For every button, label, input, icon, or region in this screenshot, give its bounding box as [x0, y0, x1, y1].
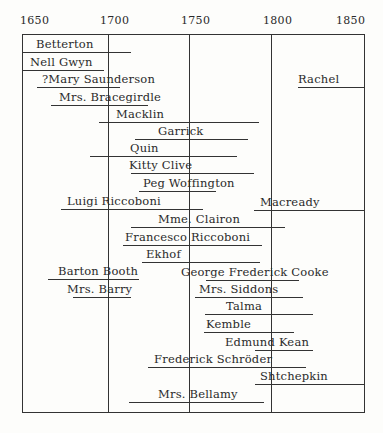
actor-name-label: Frederick Schröder — [154, 353, 272, 366]
actor-name-label: Luigi Riccoboni — [67, 195, 161, 208]
actor-name-label: Mme. Clairon — [158, 213, 240, 226]
x-tick-label: 1650 — [20, 14, 49, 27]
actor-name-label: Peg Woffington — [143, 177, 235, 190]
actor-name-label: Kemble — [206, 318, 251, 331]
lifespan-line — [139, 191, 216, 192]
lifespan-line — [254, 210, 364, 211]
lifespan-line — [22, 52, 131, 53]
lifespan-line — [51, 105, 148, 106]
lifespan-line — [142, 262, 260, 263]
actor-name-label: Talma — [226, 300, 262, 313]
lifespan-line — [255, 350, 313, 351]
actor-name-label: Mrs. Bracegirdle — [59, 91, 161, 104]
x-tick-label: 1750 — [181, 14, 210, 27]
lifespan-line — [204, 332, 294, 333]
x-tick-label: 1800 — [263, 14, 292, 27]
lifespan-line — [298, 87, 364, 88]
actor-name-label: Garrick — [158, 125, 204, 138]
actor-name-label: Mrs. Barry — [67, 283, 132, 296]
actor-name-label: Edmund Kean — [225, 336, 309, 349]
lifespan-line — [61, 209, 203, 210]
lifespan-line — [255, 384, 364, 385]
actor-name-label: Rachel — [298, 73, 339, 86]
x-tick-label: 1850 — [336, 14, 365, 27]
actor-name-label: ?Mary Saunderson — [42, 73, 155, 86]
actor-name-label: Betterton — [36, 38, 94, 51]
actor-name-label: Shtchepkin — [260, 370, 328, 383]
lifespan-line — [148, 367, 306, 368]
lifespan-line — [73, 297, 131, 298]
actor-name-label: Barton Booth — [58, 265, 138, 278]
actor-name-label: Mrs. Bellamy — [158, 388, 238, 401]
lifespan-line — [90, 156, 237, 157]
actor-name-label: Quin — [130, 142, 159, 155]
actor-name-label: Mrs. Siddons — [199, 283, 278, 296]
lifespan-line — [195, 297, 303, 298]
lifespan-line — [206, 280, 299, 281]
lifespan-line — [123, 245, 262, 246]
lifespan-line — [99, 122, 259, 123]
actor-name-label: Francesco Riccoboni — [125, 231, 250, 244]
lifespan-line — [48, 279, 139, 280]
lifespan-line — [129, 402, 264, 403]
actor-name-label: Nell Gwyn — [30, 56, 93, 69]
x-tick-label: 1700 — [100, 14, 129, 27]
lifespan-line — [37, 87, 120, 88]
lifespan-line — [205, 314, 313, 315]
actor-name-label: Ekhof — [146, 248, 181, 261]
actor-name-label: Kitty Clive — [129, 159, 192, 172]
lifespan-line — [135, 139, 248, 140]
actor-name-label: George Frederick Cooke — [181, 266, 329, 279]
lifespan-line — [22, 70, 104, 71]
lifespan-line — [131, 227, 285, 228]
actor-name-label: Macklin — [116, 108, 164, 121]
lifespan-line — [131, 173, 254, 174]
actor-name-label: Macready — [260, 196, 320, 209]
